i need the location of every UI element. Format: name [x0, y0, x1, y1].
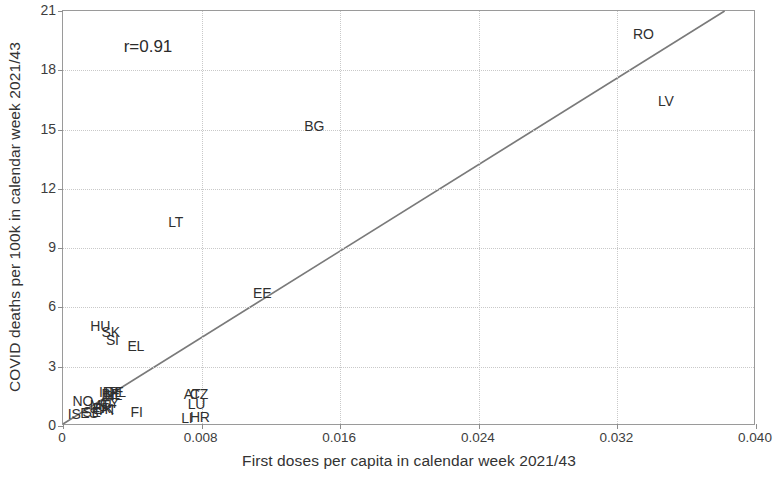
x-axis-tick-mark [756, 424, 757, 429]
gridline-horizontal [63, 70, 754, 71]
data-point-label: EE [253, 285, 271, 301]
y-axis-tick-label: 18 [12, 61, 56, 77]
gridline-vertical [617, 11, 618, 424]
trend-line [63, 11, 754, 424]
x-axis-tick-mark [340, 424, 341, 429]
x-axis-tick-mark [617, 424, 618, 429]
y-axis-tick-mark [58, 70, 63, 71]
y-axis-tick-label: 9 [12, 239, 56, 255]
scatter-plot-figure: COVID deaths per 100k in calendar week 2… [0, 0, 776, 477]
y-axis-tick-label: 21 [12, 2, 56, 18]
y-axis-tick-label: 3 [12, 358, 56, 374]
data-point-label: LI [181, 410, 192, 426]
data-point-label: FI [131, 404, 143, 420]
data-point-label: SI [106, 332, 119, 348]
x-axis-tick-label: 0.016 [322, 430, 356, 445]
y-axis-tick-labels: 036912151821 [8, 0, 56, 477]
y-axis-tick-label: 0 [12, 417, 56, 433]
y-axis-tick-mark [58, 367, 63, 368]
data-point-label: LV [658, 93, 674, 109]
x-axis-tick-mark [63, 424, 64, 429]
gridline-vertical [479, 11, 480, 424]
y-axis-tick-label: 12 [12, 180, 56, 196]
gridline-horizontal [63, 307, 754, 308]
gridline-horizontal [63, 248, 754, 249]
y-axis-tick-mark [58, 307, 63, 308]
x-axis-tick-label: 0.008 [184, 430, 218, 445]
data-point-label: LT [168, 214, 183, 230]
data-point-label: ES [80, 405, 98, 421]
x-axis-tick-label: 0.032 [599, 430, 633, 445]
y-axis-tick-mark [58, 130, 63, 131]
y-axis-tick-mark [58, 11, 63, 12]
data-point-label: BG [304, 118, 324, 134]
gridline-vertical [202, 11, 203, 424]
gridline-horizontal [63, 189, 754, 190]
y-axis-tick-mark [58, 189, 63, 190]
correlation-annotation: r=0.91 [124, 37, 173, 57]
x-axis-tick-mark [479, 424, 480, 429]
data-point-label: HR [190, 409, 210, 425]
gridline-vertical [340, 11, 341, 424]
x-axis-tick-label: 0.040 [738, 430, 772, 445]
data-point-label: PT [99, 402, 117, 418]
x-axis-tick-label: 0 [58, 430, 66, 445]
plot-area: r=0.91 ROLVBGLTEEHUSKSIELATCZLUHRLIIEBEP… [62, 10, 755, 425]
y-axis-tick-mark [58, 248, 63, 249]
x-axis-label: First doses per capita in calendar week … [62, 452, 756, 470]
data-point-label: EL [127, 338, 144, 354]
y-axis-tick-label: 15 [12, 121, 56, 137]
y-axis-tick-label: 6 [12, 298, 56, 314]
gridline-horizontal [63, 130, 754, 131]
gridline-horizontal [63, 367, 754, 368]
data-point-label: RO [633, 26, 654, 42]
x-axis-tick-label: 0.024 [461, 430, 495, 445]
data-point-label: IS [68, 406, 81, 422]
